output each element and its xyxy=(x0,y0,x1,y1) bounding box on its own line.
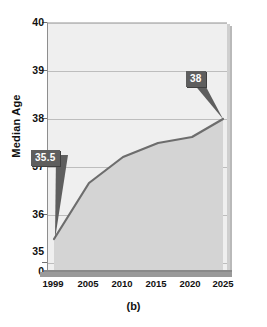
callout-pointer-end xyxy=(193,83,223,119)
area-fill xyxy=(54,119,223,272)
y-tick-label-40: 40 xyxy=(16,16,44,28)
figure-chart: Median Age xyxy=(0,0,267,327)
y-tick-label-36: 36 xyxy=(16,208,44,220)
x-tick-label-1999: 1999 xyxy=(33,278,73,289)
figure-caption: (b) xyxy=(0,300,267,312)
y-tick-label-39: 39 xyxy=(16,64,44,76)
data-label-end: 38 xyxy=(186,71,206,87)
x-axis-baseline xyxy=(40,272,232,277)
plot-area xyxy=(47,22,227,272)
y-tick-label-35: 35 xyxy=(16,245,44,257)
y-tick-label-38: 38 xyxy=(16,112,44,124)
x-tick-label-2025: 2025 xyxy=(203,278,243,289)
y-tick-35 xyxy=(42,262,47,263)
data-label-start: 35.5 xyxy=(31,150,60,166)
chart-svg xyxy=(48,23,227,272)
